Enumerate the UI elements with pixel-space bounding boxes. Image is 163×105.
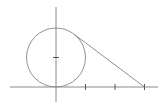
geometry-diagram bbox=[0, 0, 163, 105]
tangent-line bbox=[74, 34, 145, 87]
